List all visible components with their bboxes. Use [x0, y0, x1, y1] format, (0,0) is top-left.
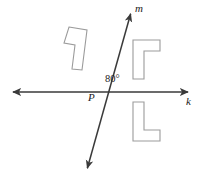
- point-p-label: P: [88, 92, 95, 103]
- shape-lower-right: [133, 102, 160, 141]
- line-k-label: k: [186, 96, 191, 107]
- lines-group: [13, 14, 188, 168]
- shape-top-left: [64, 27, 87, 70]
- geometry-canvas: [0, 0, 201, 182]
- line-m-label: m: [135, 3, 143, 14]
- angle-measure-label: 80°: [105, 74, 120, 85]
- geometry-figure: m k P 80°: [0, 0, 201, 182]
- shape-upper-right: [133, 40, 160, 79]
